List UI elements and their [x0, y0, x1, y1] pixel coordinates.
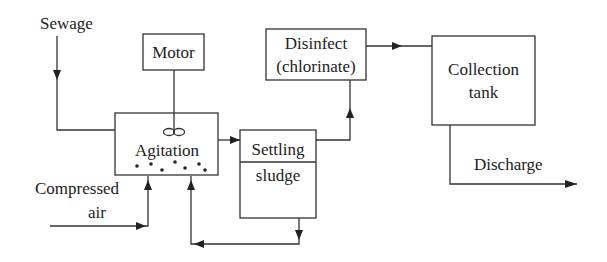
motor-box: Motor [143, 34, 204, 70]
agitation-to-settling-line [218, 136, 240, 144]
collection-label: Collection [448, 60, 519, 79]
disinfect-label: Disinfect [285, 34, 348, 53]
tank-label: tank [469, 83, 499, 102]
settling-box: Settling sludge [240, 130, 316, 218]
sludge-label: sludge [256, 166, 300, 185]
motor-label: Motor [152, 43, 195, 62]
agitation-label: Agitation [135, 141, 200, 160]
settling-label: Settling [252, 140, 305, 159]
process-diagram: Sewage Motor Agitation Compressed air [0, 0, 607, 262]
settling-to-disinfect-line [316, 80, 354, 140]
collection-tank-box: Collection tank [432, 36, 535, 125]
air-bubbles-icon [135, 160, 207, 172]
agitation-box: Agitation [115, 113, 218, 175]
sludge-return-line [187, 176, 303, 248]
disinfect-to-collection-line [366, 42, 432, 50]
compressed-air-label-line2: air [88, 203, 106, 222]
sewage-label: Sewage [40, 14, 93, 33]
compressed-air-label-line1: Compressed [35, 179, 120, 198]
discharge-label: Discharge [474, 155, 543, 174]
disinfect-box: Disinfect (chlorinate) [266, 29, 366, 80]
sewage-flow-line [53, 36, 115, 130]
chlorinate-label: (chlorinate) [276, 57, 355, 76]
